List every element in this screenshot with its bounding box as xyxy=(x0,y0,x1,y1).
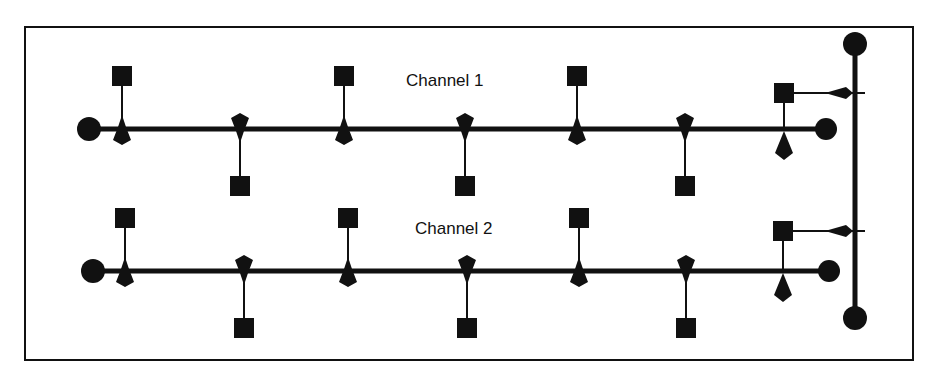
station-node-icon xyxy=(334,66,354,86)
bus-terminator-icon xyxy=(77,117,101,141)
station-node-icon xyxy=(230,176,250,196)
vertical-backbone-bus xyxy=(843,32,867,330)
station-node-icon xyxy=(774,83,794,103)
bus-terminator-icon xyxy=(81,259,105,283)
backbone-terminator-icon xyxy=(843,32,867,56)
bus-terminator-icon xyxy=(815,118,837,140)
channel-1-label: Channel 1 xyxy=(406,71,484,90)
station-node-icon xyxy=(773,221,793,241)
station-node-icon xyxy=(676,318,696,338)
backbone-coupler-icon xyxy=(825,87,853,99)
station-node-icon xyxy=(112,66,132,86)
backbone-terminator-icon xyxy=(843,306,867,330)
station-node-icon xyxy=(567,66,587,86)
station-node-icon xyxy=(115,208,135,228)
station-node-icon xyxy=(234,318,254,338)
station-node-icon xyxy=(569,208,589,228)
network-diagram: Channel 1 Channel 2 xyxy=(0,0,937,378)
tap-coupler-icon xyxy=(775,131,793,160)
station-node-icon xyxy=(675,176,695,196)
bus-terminator-icon xyxy=(818,260,840,282)
channel-2-group: Channel 2 xyxy=(81,208,865,338)
station-node-icon xyxy=(338,208,358,228)
station-node-icon xyxy=(455,176,475,196)
backbone-coupler-icon xyxy=(825,225,853,237)
station-node-icon xyxy=(457,318,477,338)
tap-coupler-icon xyxy=(774,273,792,302)
channel-2-label: Channel 2 xyxy=(415,219,493,238)
channel-1-group: Channel 1 xyxy=(77,66,865,196)
